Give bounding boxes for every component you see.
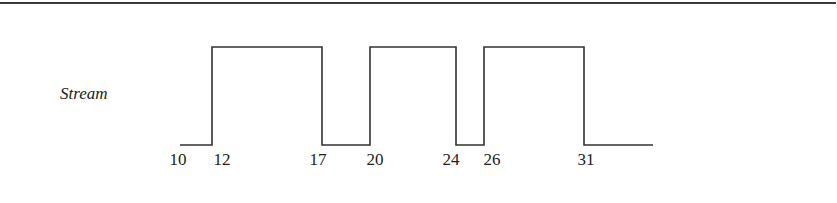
tick-label-20: 20	[367, 150, 384, 170]
tick-label-10: 10	[170, 150, 187, 170]
tick-label-24: 24	[443, 150, 460, 170]
tick-label-31: 31	[578, 150, 595, 170]
timing-waveform	[0, 0, 837, 203]
tick-label-26: 26	[484, 150, 501, 170]
tick-label-12: 12	[214, 150, 231, 170]
tick-label-17: 17	[310, 150, 327, 170]
